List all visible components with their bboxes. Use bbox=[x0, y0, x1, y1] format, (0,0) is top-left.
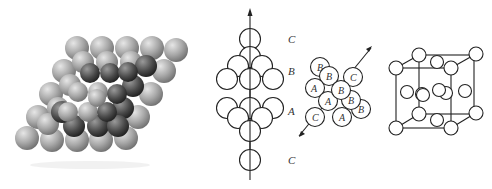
abc-label: C bbox=[350, 72, 357, 83]
abc-label: B bbox=[326, 71, 332, 82]
abc-packing-figure: B B C A B A B C A B bbox=[295, 40, 380, 140]
abc-packing-panel: B B C A B A B C A B bbox=[295, 40, 380, 140]
atoms bbox=[389, 47, 483, 135]
arrow-up-icon bbox=[248, 8, 253, 16]
layer-stack-panel: C B A C bbox=[200, 0, 300, 189]
label-c-bottom: C bbox=[288, 154, 296, 166]
abc-label: B bbox=[338, 85, 344, 96]
sphere-packing-panel bbox=[0, 0, 200, 189]
layer-stack-figure: C B A C bbox=[200, 0, 300, 189]
abc-label: A bbox=[310, 83, 318, 94]
arrow-out-icon bbox=[366, 46, 372, 52]
abc-label: B bbox=[358, 104, 364, 115]
label-a: A bbox=[287, 105, 295, 117]
fcc-cell-figure bbox=[380, 30, 492, 160]
abc-label: A bbox=[338, 112, 346, 123]
abc-label: B bbox=[317, 62, 323, 73]
arrow-in-icon bbox=[299, 131, 305, 137]
abc-label: C bbox=[312, 112, 319, 123]
sphere-packing-figure bbox=[0, 0, 200, 189]
label-b: B bbox=[288, 65, 295, 77]
abc-label: B bbox=[348, 95, 354, 106]
abc-label: A bbox=[324, 96, 332, 107]
fcc-cell-panel bbox=[380, 30, 492, 160]
